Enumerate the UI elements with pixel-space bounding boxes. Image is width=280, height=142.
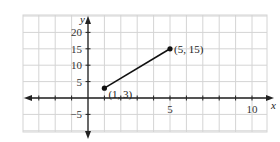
grid bbox=[23, 15, 267, 132]
point-label-1-3: (1, 3) bbox=[108, 88, 132, 101]
labels: 5102015105−5xy(1, 3)(5, 15) bbox=[70, 13, 276, 120]
x-tick-label: 5 bbox=[167, 103, 173, 115]
y-tick-label: 10 bbox=[71, 59, 83, 71]
x-axis-left-arrow-icon bbox=[24, 95, 32, 101]
y-axis-up-arrow-icon bbox=[85, 16, 91, 24]
y-tick-label: 20 bbox=[71, 26, 83, 38]
x-axis-label: x bbox=[270, 99, 276, 111]
axes bbox=[24, 16, 274, 139]
data-point bbox=[102, 86, 107, 91]
y-axis-label: y bbox=[79, 13, 85, 25]
y-tick-label: −5 bbox=[70, 108, 82, 120]
data-point bbox=[167, 46, 172, 51]
point-label-5-15: (5, 15) bbox=[174, 43, 204, 56]
y-axis-down-arrow-icon bbox=[85, 131, 91, 139]
x-tick-label: 10 bbox=[247, 103, 259, 115]
y-tick-label: 15 bbox=[71, 43, 83, 55]
line-segment-chart: 5102015105−5xy(1, 3)(5, 15) bbox=[0, 0, 280, 142]
y-tick-label: 5 bbox=[77, 76, 83, 88]
